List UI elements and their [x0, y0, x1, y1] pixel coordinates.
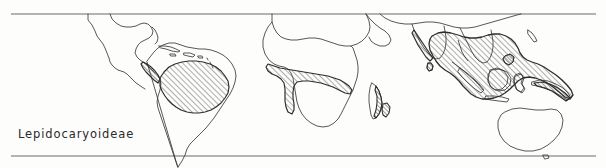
madagascar-east-hatched-region: [374, 86, 382, 118]
figure-caption: Lepidocaryoideae: [18, 127, 134, 141]
world-map: [0, 0, 606, 168]
cuba-outline: [159, 46, 180, 52]
australia-outline: [498, 108, 563, 151]
jamaica-outline: [170, 54, 176, 56]
puerto-rico-outline: [198, 56, 203, 58]
hatched-distribution-areas: [141, 30, 573, 118]
central-america-hatched-region: [141, 62, 160, 83]
distribution-map-figure: Lepidocaryoideae: [0, 0, 606, 168]
mexico-texas-outline: [110, 14, 153, 64]
north-america-outline: [88, 14, 145, 89]
hispaniola-outline: [184, 53, 195, 57]
amazonia-hatched-region: [160, 61, 229, 113]
japan-outline: [528, 30, 537, 42]
madagascar-south-hatched-region: [382, 103, 390, 117]
eurasia-outline: [380, 14, 521, 28]
equatorial-africa-hatched-region: [266, 64, 352, 114]
sri-lanka-hatched-region: [427, 63, 433, 71]
florida-outline: [152, 27, 158, 44]
